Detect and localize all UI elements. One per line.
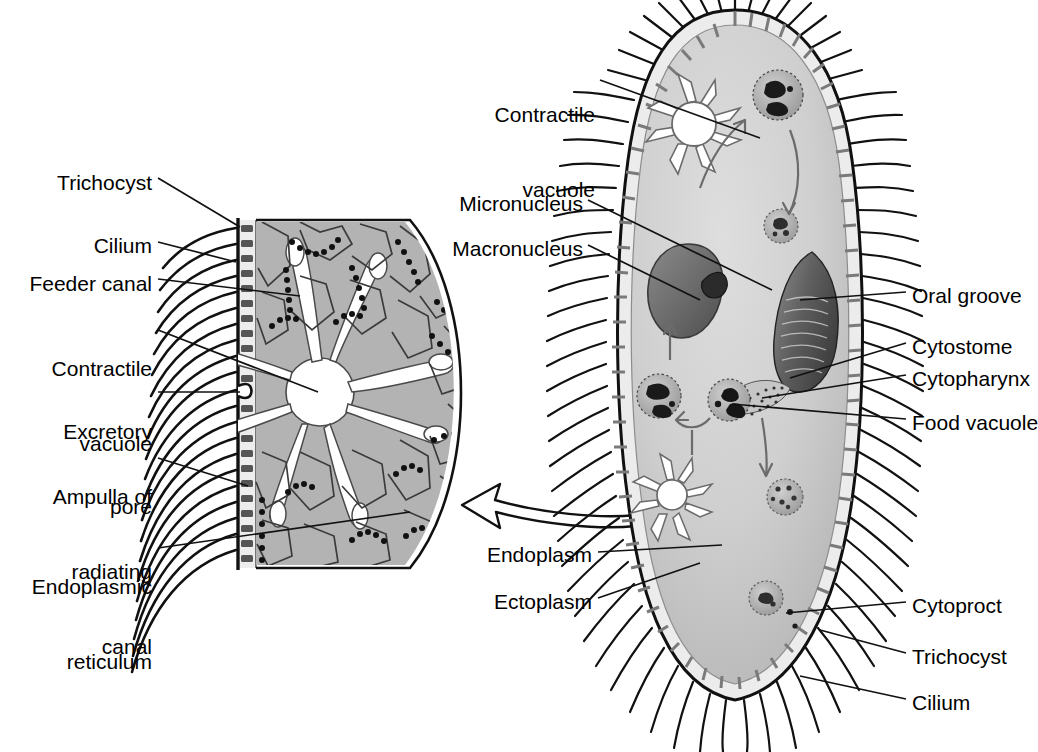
food-vacuole-5 — [767, 479, 803, 515]
food-vacuole-2 — [764, 209, 798, 243]
label-cilium: Cilium — [94, 233, 152, 258]
label-line-2: reticulum — [32, 649, 152, 674]
label-cytostome: Cytostome — [912, 334, 1012, 359]
label-endoplasm: Endoplasm — [487, 542, 592, 567]
label-cytopharynx: Cytopharynx — [912, 366, 1030, 391]
label-line-1: Ampulla of — [53, 484, 152, 509]
inset-contractile-vacuole-detail — [132, 218, 470, 672]
label-oral-groove: Oral groove — [912, 283, 1022, 308]
paramecium-cell — [547, 0, 923, 752]
label-contractile-vacuole-cell: Contractile vacuole — [495, 52, 595, 252]
label-micronucleus: Micronucleus — [459, 191, 583, 216]
food-vacuole-6 — [749, 581, 783, 615]
food-vacuole-1 — [753, 70, 803, 120]
label-cytoproct: Cytoproct — [912, 593, 1002, 618]
label-food-vacuole: Food vacuole — [912, 410, 1038, 435]
label-feeder-canal: Feeder canal — [29, 271, 152, 296]
label-macronucleus: Macronucleus — [452, 236, 583, 261]
food-vacuole-4 — [637, 374, 681, 418]
leader-trichocyst — [158, 178, 240, 227]
magnification-pointer-arrow — [462, 484, 636, 528]
label-line-1: Endoplasmic — [32, 574, 152, 599]
inset-contractile-vacuole — [286, 358, 354, 426]
inset-cytoplasm — [194, 220, 470, 568]
label-trichocyst: Trichocyst — [57, 170, 152, 195]
label-cilium-right: Cilium — [912, 690, 970, 715]
label-trichocyst-right: Trichocyst — [912, 644, 1007, 669]
label-line-1: Contractile — [495, 102, 595, 127]
excretory-pore-shape — [238, 384, 252, 398]
food-vacuole-3 — [708, 379, 750, 421]
label-endoplasmic-reticulum: Endoplasmic reticulum — [32, 524, 152, 724]
label-ectoplasm: Ectoplasm — [494, 589, 592, 614]
